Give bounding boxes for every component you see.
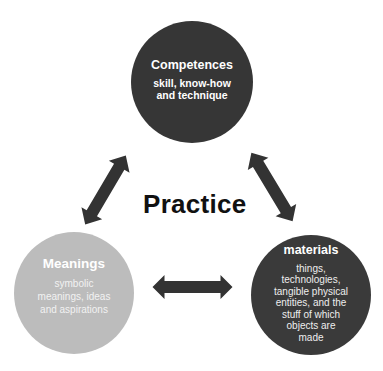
description-line: meanings, ideas	[38, 290, 111, 303]
node-materials-title: materials	[284, 243, 339, 258]
arrow-meanings-materials	[153, 275, 233, 299]
node-materials-description: things, technologies, tangible physical …	[274, 263, 348, 344]
node-meanings-title: Meanings	[43, 256, 105, 271]
arrow-competences-meanings	[75, 149, 136, 230]
description-line: technologies,	[274, 274, 348, 286]
center-label-practice: Practice	[143, 189, 247, 220]
description-line: tangible physical	[274, 286, 348, 298]
description-line: entities, and the	[274, 297, 348, 309]
description-line: and aspirations	[38, 303, 111, 316]
description-line: made	[274, 332, 348, 344]
node-materials: materials things, technologies, tangible…	[251, 235, 371, 355]
description-line: symbolic	[38, 277, 111, 290]
arrow-competences-materials	[241, 147, 303, 228]
node-competences-description: skill, know-how and technique	[153, 77, 231, 101]
description-line: objects are	[274, 320, 348, 332]
node-competences-title: Competences	[151, 58, 233, 73]
description-line: and technique	[153, 89, 231, 101]
node-meanings: Meanings symbolic meanings, ideas and as…	[14, 232, 134, 354]
description-line: things,	[274, 263, 348, 275]
description-line: stuff of which	[274, 309, 348, 321]
node-meanings-description: symbolic meanings, ideas and aspirations	[38, 277, 111, 316]
node-competences: Competences skill, know-how and techniqu…	[131, 21, 253, 143]
description-line: skill, know-how	[153, 77, 231, 89]
